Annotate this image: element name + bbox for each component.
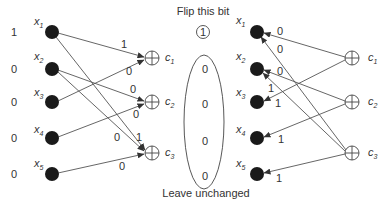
input-bit-4: 0 <box>11 132 17 144</box>
check-node-c1: c1 <box>345 51 378 65</box>
edge-label-x1-c3: 0 <box>114 131 120 143</box>
variable-node-x5: x5 <box>235 157 264 181</box>
edge-c3-x5 <box>264 154 345 173</box>
edge-label-c3-x1: 0 <box>277 43 283 55</box>
variable-node-x3: x3 <box>235 86 264 109</box>
right-panel: 0 0 0 1 1 1 1 x1 x2 x3 x4 x5 <box>235 14 378 184</box>
edge-label-c1-x3: 1 <box>275 97 281 109</box>
input-bit-3: 0 <box>11 96 17 108</box>
edge-label-x3-c1: 0 <box>126 65 132 77</box>
svg-text:c3: c3 <box>368 146 378 160</box>
edge-c3-x2 <box>263 73 345 151</box>
edge-label-x1-c1: 1 <box>121 38 127 50</box>
check-node-c3: c3 <box>345 146 378 160</box>
unchanged-bit-3: 0 <box>202 135 208 147</box>
edge-x5-c3 <box>58 154 144 173</box>
svg-text:x2: x2 <box>33 50 44 64</box>
svg-text:c2: c2 <box>368 95 378 109</box>
flip-caption: Flip this bit <box>177 5 230 17</box>
edge-x1-c1 <box>58 33 144 57</box>
flip-bit-value: 1 <box>200 26 206 38</box>
edge-label-c2-x4: 1 <box>278 133 284 145</box>
svg-text:x2: x2 <box>235 50 246 64</box>
check-node-c1: c1 <box>145 51 175 65</box>
unchanged-ellipse <box>184 55 224 189</box>
edge-label-x2-c2: 0 <box>130 83 136 95</box>
svg-text:c2: c2 <box>165 95 175 109</box>
unchanged-caption: Leave unchanged <box>162 187 249 199</box>
variable-node-x5: x5 <box>33 157 59 181</box>
svg-text:x1: x1 <box>235 14 246 28</box>
svg-text:x5: x5 <box>235 157 246 171</box>
unchanged-bit-2: 0 <box>202 98 208 110</box>
svg-text:x4: x4 <box>235 123 246 137</box>
edge-label-x4-c2: 0 <box>133 108 139 120</box>
input-bit-2: 0 <box>11 63 17 75</box>
variable-node-x4: x4 <box>235 123 264 145</box>
svg-text:c1: c1 <box>368 51 378 65</box>
svg-text:c3: c3 <box>165 146 175 160</box>
tanner-graph-diagram: 1 0 0 0 0 1 0 0 0 0 1 0 x1 x2 x3 <box>0 0 387 209</box>
variable-node-x4: x4 <box>33 123 59 145</box>
variable-node-x2: x2 <box>235 50 264 76</box>
variable-node-x2: x2 <box>33 50 59 76</box>
check-node-c2: c2 <box>345 95 378 109</box>
edge-label-x2-c3: 1 <box>136 131 142 143</box>
edge-label-c1-x1: 0 <box>277 25 283 37</box>
svg-text:x5: x5 <box>33 157 44 171</box>
edge-label-x5-c3: 0 <box>119 160 125 172</box>
check-node-c3: c3 <box>145 146 175 160</box>
svg-text:x1: x1 <box>33 15 44 29</box>
check-node-c2: c2 <box>145 95 175 109</box>
input-bit-5: 0 <box>11 168 17 180</box>
decision-column: Flip this bit 1 0 0 0 0 Leave unchanged <box>162 5 249 199</box>
svg-text:c1: c1 <box>165 51 175 65</box>
svg-text:x4: x4 <box>33 123 44 137</box>
variable-node-x1: x1 <box>33 15 59 39</box>
variable-node-x3: x3 <box>33 86 59 109</box>
input-bit-1: 1 <box>11 26 17 38</box>
svg-text:x3: x3 <box>235 86 246 100</box>
unchanged-bit-1: 0 <box>202 63 208 75</box>
svg-text:x3: x3 <box>33 86 44 100</box>
edge-label-c3-x2: 1 <box>268 82 274 94</box>
unchanged-bit-4: 0 <box>202 170 208 182</box>
variable-node-x1: x1 <box>235 14 264 39</box>
edge-label-c2-x2: 0 <box>277 65 283 77</box>
left-panel: 1 0 0 0 0 1 0 0 0 0 1 0 x1 x2 x3 <box>11 15 175 181</box>
edge-label-c3-x5: 1 <box>276 172 282 184</box>
